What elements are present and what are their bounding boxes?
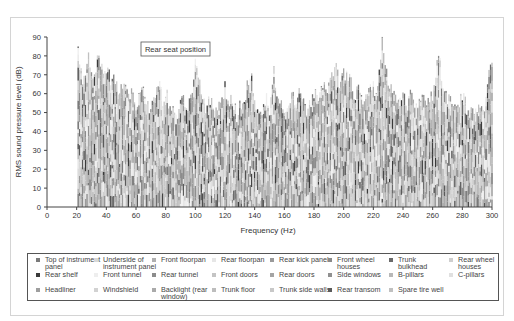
stacked-bar <box>140 92 141 207</box>
stacked-bar <box>281 100 282 207</box>
stacked-bar <box>110 85 111 207</box>
x-tick-label: 40 <box>102 211 110 220</box>
stacked-bar <box>319 92 320 207</box>
x-tick-label: 200 <box>337 211 350 220</box>
stacked-bar <box>460 94 461 207</box>
stacked-bar <box>275 88 276 207</box>
stacked-bar <box>438 56 439 207</box>
stacked-bar <box>158 86 159 207</box>
stacked-bar <box>390 84 391 207</box>
stacked-bar <box>159 82 160 207</box>
y-axis-label: RMS sound pressure level (dB) <box>14 66 23 177</box>
legend-swatch-icon <box>389 273 393 277</box>
stacked-bar <box>306 116 307 207</box>
stacked-bar <box>109 69 110 207</box>
stacked-bar <box>181 96 182 207</box>
stacked-bar <box>284 113 285 207</box>
stacked-bar <box>342 73 343 207</box>
stacked-bar <box>115 84 116 207</box>
stacked-bar <box>168 109 169 207</box>
stacked-bar <box>362 104 363 207</box>
stacked-bar <box>439 58 440 207</box>
legend-label: Trunk bulkhead <box>398 256 427 271</box>
stacked-bar <box>425 101 426 207</box>
stacked-bar <box>149 113 150 207</box>
stacked-bar <box>491 63 492 207</box>
y-tick-label: 50 <box>33 108 41 117</box>
stacked-bar <box>297 98 298 207</box>
stacked-bar <box>125 85 126 207</box>
legend-label: Spare tire well <box>398 286 444 293</box>
legend-swatch-icon <box>152 258 156 262</box>
legend-label: Rear floorpan <box>221 256 265 263</box>
stacked-bar <box>273 66 274 207</box>
stacked-bar <box>374 96 375 207</box>
stacked-bar <box>343 68 344 207</box>
stacked-bar <box>459 107 460 207</box>
stacked-bar <box>490 65 491 207</box>
legend-item: Backlight (rear window) <box>152 286 207 301</box>
stacked-bar <box>162 107 163 207</box>
stacked-bar <box>161 87 162 207</box>
stacked-bar <box>153 97 154 207</box>
stacked-bar <box>293 92 294 207</box>
stacked-bar <box>214 111 215 207</box>
stacked-bar <box>408 96 409 207</box>
legend-swatch-icon <box>270 288 274 292</box>
stacked-bar <box>441 81 442 207</box>
stacked-bar <box>272 85 273 207</box>
stacked-bar <box>113 74 114 207</box>
stacked-bar <box>192 93 193 207</box>
x-axis-label: Frequency (Hz) <box>240 226 295 235</box>
stacked-bar <box>226 99 227 207</box>
x-tick-label: 280 <box>456 211 469 220</box>
stacked-bar <box>126 89 127 207</box>
stacked-bar <box>454 104 455 207</box>
stacked-bar <box>472 108 473 207</box>
stacked-bar <box>371 90 372 207</box>
stacked-bar <box>135 110 136 207</box>
legend: Top of instrument panelUnderside of inst… <box>27 253 499 301</box>
stacked-bar <box>97 55 98 207</box>
legend-item: Rear wheel houses <box>449 256 494 271</box>
stacked-bar <box>364 101 365 207</box>
stacked-bar <box>92 79 93 207</box>
stacked-bar <box>392 93 393 207</box>
stacked-bar <box>156 87 157 207</box>
legend-swatch-icon <box>270 273 274 277</box>
legend-item: Rear doors <box>270 271 315 278</box>
stacked-bar <box>370 84 371 207</box>
stacked-bar <box>336 63 337 207</box>
stacked-bar <box>100 67 101 207</box>
legend-swatch-icon <box>212 288 216 292</box>
legend-label: Top of instrument panel <box>45 256 100 271</box>
legend-item: Trunk floor <box>212 286 255 293</box>
stacked-bar <box>196 66 197 207</box>
stacked-bar <box>300 93 301 207</box>
stacked-bar <box>254 100 255 207</box>
stacked-bar <box>269 115 270 207</box>
stacked-bar <box>465 97 466 207</box>
stacked-bar <box>190 95 191 207</box>
x-tick-label: 180 <box>308 211 321 220</box>
stacked-bar <box>435 78 436 207</box>
legend-label: Front doors <box>221 271 258 278</box>
stacked-bar <box>137 107 138 207</box>
stacked-bar <box>103 74 104 207</box>
stacked-bar <box>382 37 383 207</box>
stacked-bar <box>106 73 107 207</box>
stacked-bar <box>164 102 165 207</box>
stacked-bar <box>155 98 156 207</box>
stacked-bar <box>444 91 445 207</box>
stacked-bar <box>264 106 265 207</box>
stacked-bar <box>463 93 464 207</box>
stacked-bar <box>361 95 362 207</box>
stacked-bar <box>312 94 313 207</box>
legend-swatch-icon <box>328 273 332 277</box>
legend-label: Underside of instrument panel <box>103 256 156 271</box>
stacked-bar <box>285 112 286 207</box>
legend-item: Trunk side walls <box>270 286 330 293</box>
stacked-bar <box>411 93 412 207</box>
stacked-bar <box>316 95 317 207</box>
stacked-bar <box>187 111 188 207</box>
